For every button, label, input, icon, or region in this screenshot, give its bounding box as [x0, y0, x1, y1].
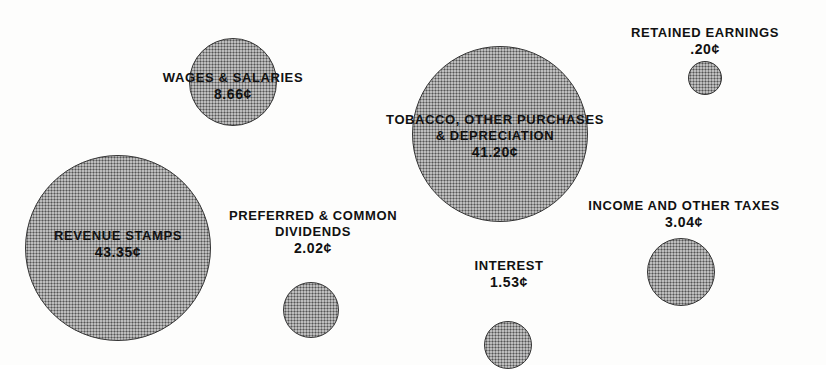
label-text: PREFERRED & COMMON [229, 208, 397, 224]
label-text: INTEREST [474, 258, 543, 274]
label-text-2: & DEPRECIATION [386, 128, 604, 144]
bubble-dividends [283, 282, 339, 338]
label-text: RETAINED EARNINGS [631, 25, 779, 41]
label-text-2: DIVIDENDS [229, 224, 397, 240]
label-value: 41.20¢ [386, 144, 604, 160]
label-value: 2.02¢ [229, 240, 397, 256]
label-income-taxes: INCOME AND OTHER TAXES 3.04¢ [588, 198, 780, 230]
label-interest: INTEREST 1.53¢ [474, 258, 543, 290]
bubble-interest [484, 321, 532, 369]
label-tobacco-purchases: TOBACCO, OTHER PURCHASES & DEPRECIATION … [386, 112, 604, 160]
label-value: .20¢ [631, 41, 779, 57]
label-retained-earnings: RETAINED EARNINGS .20¢ [631, 25, 779, 57]
label-revenue-stamps: REVENUE STAMPS 43.35¢ [54, 228, 182, 260]
label-value: 43.35¢ [54, 244, 182, 260]
bubble-retained-earnings [688, 61, 722, 95]
label-wages-salaries: WAGES & SALARIES 8.66¢ [163, 70, 303, 102]
label-text: INCOME AND OTHER TAXES [588, 198, 780, 214]
label-text: TOBACCO, OTHER PURCHASES [386, 112, 604, 128]
label-text: REVENUE STAMPS [54, 228, 182, 243]
label-value: 3.04¢ [588, 214, 780, 230]
bubble-income-taxes [647, 238, 715, 306]
label-text: WAGES & SALARIES [163, 70, 303, 85]
label-dividends: PREFERRED & COMMON DIVIDENDS 2.02¢ [229, 208, 397, 256]
label-value: 1.53¢ [474, 274, 543, 290]
label-value: 8.66¢ [163, 86, 303, 102]
